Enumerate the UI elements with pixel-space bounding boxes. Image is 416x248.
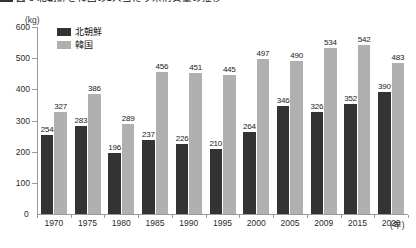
x-axis-tick-label: 1980: [112, 218, 131, 228]
bar-north-korea: 283: [75, 126, 88, 214]
bar-group: 390483: [378, 27, 404, 214]
bar-value-label: 497: [257, 49, 270, 58]
x-axis-tick: [239, 215, 240, 218]
y-axis-tick: [32, 121, 37, 122]
bar-value-label: 327: [54, 102, 67, 111]
bar-group: 254327: [41, 27, 67, 214]
bar-value-label: 483: [392, 53, 405, 62]
y-axis-tick-label: 500: [16, 53, 30, 63]
x-axis-tick-label: 1975: [78, 218, 97, 228]
x-axis-tick-label: 1995: [213, 218, 232, 228]
x-axis-tick-label: 2000: [247, 218, 266, 228]
x-axis-tick: [273, 215, 274, 218]
bar-value-label: 542: [358, 35, 371, 44]
bar-group: 210445: [210, 27, 236, 214]
bar-value-label: 445: [223, 65, 236, 74]
bar-group: 226451: [176, 27, 202, 214]
x-axis-line: [37, 214, 408, 215]
bar-north-korea: 196: [108, 153, 121, 214]
bar-south-korea: 483: [392, 63, 405, 214]
bar-value-label: 264: [243, 122, 256, 131]
x-axis-tick: [71, 215, 72, 218]
x-axis-tick: [341, 215, 342, 218]
bar-value-label: 456: [155, 62, 168, 71]
x-axis-tick: [104, 215, 105, 218]
bar-north-korea: 237: [142, 140, 155, 214]
bar-value-label: 226: [176, 134, 189, 143]
bar-group: 264497: [243, 27, 269, 214]
y-axis-tick: [32, 89, 37, 90]
bar-value-label: 289: [122, 114, 135, 123]
x-axis-tick: [374, 215, 375, 218]
bar-value-label: 326: [311, 102, 324, 111]
legend-label: 韓国: [75, 38, 93, 51]
x-axis-tick-label: 2020: [382, 218, 401, 228]
x-axis-tick-label: 2009: [314, 218, 333, 228]
bar-south-korea: 534: [324, 48, 337, 214]
bar-north-korea: 226: [176, 144, 189, 214]
bar-south-korea: 386: [88, 94, 101, 214]
x-axis-tick-label: 2005: [280, 218, 299, 228]
y-axis-tick-label: 200: [16, 147, 30, 157]
x-axis-tick: [307, 215, 308, 218]
x-axis-tick: [138, 215, 139, 218]
bar-value-label: 196: [108, 143, 121, 152]
y-axis-tick-label: 600: [16, 22, 30, 32]
bar-south-korea: 490: [290, 61, 303, 214]
x-axis-tick-label: 1985: [146, 218, 165, 228]
legend-label: 北朝鮮: [75, 25, 102, 38]
legend-swatch-icon: [57, 28, 71, 36]
bar-value-label: 534: [324, 38, 337, 47]
bar-value-label: 283: [74, 116, 87, 125]
x-axis-tick-label: 1990: [179, 218, 198, 228]
bar-south-korea: 497: [257, 59, 270, 214]
bar-group: 283386: [75, 27, 101, 214]
bar-south-korea: 327: [54, 112, 67, 214]
x-axis-tick-label: 2015: [348, 218, 367, 228]
legend-swatch-icon: [57, 41, 71, 49]
legend-item-north-korea[interactable]: 北朝鮮: [57, 26, 102, 37]
chart-figure: (kg) 100200300400500600 2543272833861962…: [0, 0, 416, 248]
bar-value-label: 386: [88, 84, 101, 93]
y-axis-tick: [32, 58, 37, 59]
bar-value-label: 346: [277, 96, 290, 105]
x-axis-tick-label: 1970: [44, 218, 63, 228]
y-axis-tick-label: 400: [16, 84, 30, 94]
x-axis-tick: [206, 215, 207, 218]
y-axis-tick: [32, 152, 37, 153]
bar-group: 346490: [277, 27, 303, 214]
bar-value-label: 390: [378, 82, 391, 91]
y-axis-tick: [32, 27, 37, 28]
bar-north-korea: 264: [243, 132, 256, 214]
bar-north-korea: 346: [277, 106, 290, 214]
bar-value-label: 451: [189, 63, 202, 72]
x-axis-tick: [172, 215, 173, 218]
bar-south-korea: 451: [189, 73, 202, 214]
y-axis-tick-label: 300: [16, 116, 30, 126]
bar-value-label: 352: [344, 94, 357, 103]
x-axis-tick: [408, 215, 409, 218]
bar-value-label: 254: [41, 125, 54, 134]
legend-item-south-korea[interactable]: 韓国: [57, 39, 102, 50]
bar-north-korea: 390: [378, 92, 391, 214]
y-axis-zero-label: 0: [24, 209, 29, 219]
bar-value-label: 237: [142, 130, 155, 139]
y-axis-tick-label: 100: [16, 178, 30, 188]
bar-north-korea: 352: [344, 104, 357, 214]
bar-group: 352542: [344, 27, 370, 214]
bar-group: 237456: [142, 27, 168, 214]
y-axis-tick: [32, 183, 37, 184]
bar-group: 326534: [311, 27, 337, 214]
bar-north-korea: 254: [41, 135, 54, 214]
plot-area: 100200300400500600 254327283386196289237…: [37, 27, 408, 214]
x-axis-tick: [37, 215, 38, 218]
bar-north-korea: 210: [210, 149, 223, 214]
bar-value-label: 490: [290, 51, 303, 60]
bar-south-korea: 445: [223, 75, 236, 214]
bar-value-label: 210: [209, 139, 222, 148]
bar-south-korea: 542: [358, 45, 371, 214]
chart-legend: 北朝鮮韓国: [57, 26, 102, 52]
bar-north-korea: 326: [311, 112, 324, 214]
bar-group: 196289: [108, 27, 134, 214]
bar-south-korea: 289: [122, 124, 135, 214]
